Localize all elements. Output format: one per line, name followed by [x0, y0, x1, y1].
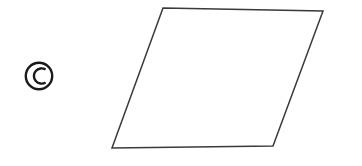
circled-letter-c-icon [26, 63, 52, 89]
figure-canvas: C [0, 0, 362, 166]
label-ring-icon [26, 63, 52, 89]
geometry-figure: C [0, 0, 362, 166]
label-letter-c-icon [34, 68, 46, 83]
parallelogram-shape [112, 8, 323, 148]
